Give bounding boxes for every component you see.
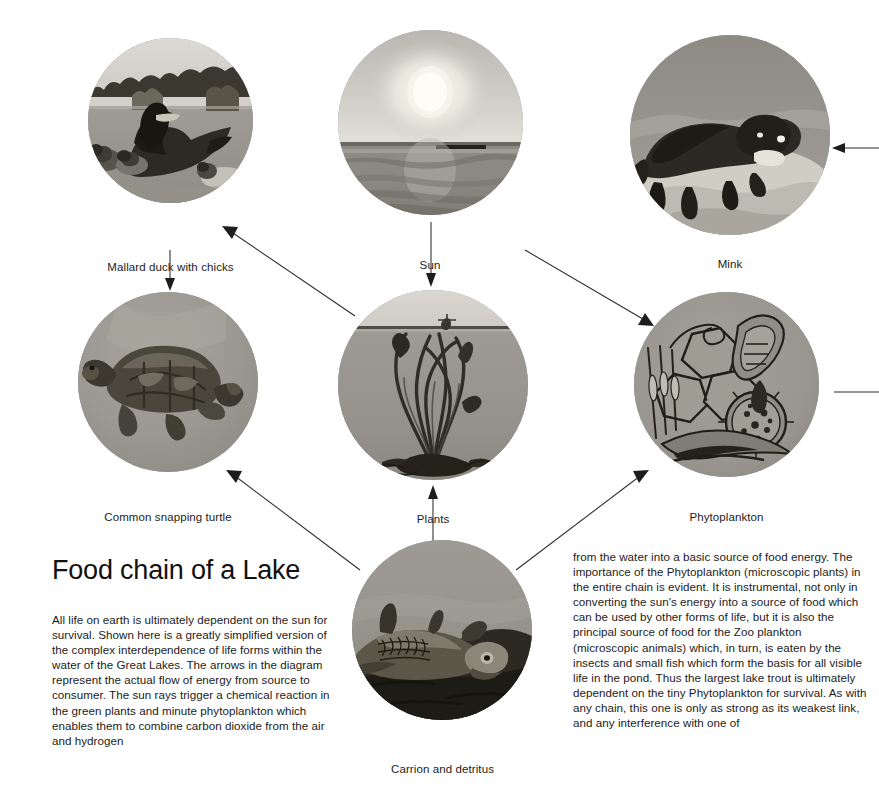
- arrow-sun-to-plants: [424, 222, 438, 288]
- body-paragraph-left: All life on earth is ultimately dependen…: [52, 612, 340, 748]
- arrow-offpage-to-mink: [832, 143, 879, 153]
- page-title: Food chain of a Lake: [52, 554, 432, 586]
- food-chain-diagram: Mallard duck with chicks: [0, 0, 879, 806]
- duck-illustration: [88, 38, 253, 203]
- arrow-sun-to-phytoplankton: [525, 250, 654, 326]
- body-paragraph-right: from the water into a basic source of fo…: [573, 549, 869, 730]
- caption-turtle: Common snapping turtle: [73, 510, 263, 524]
- arrow-mallard-to-turtle: [163, 250, 177, 292]
- mink-illustration: [630, 35, 830, 235]
- arrow-carrion-to-plants: [426, 485, 440, 545]
- caption-mink: Mink: [670, 257, 790, 271]
- body-text-right: from the water into a basic source of fo…: [573, 549, 869, 730]
- turtle-illustration: [78, 292, 258, 472]
- caption-phytoplankton: Phytoplankton: [659, 510, 794, 524]
- body-text-left: All life on earth is ultimately dependen…: [52, 612, 340, 748]
- plants-illustration: [338, 290, 528, 480]
- phytoplankton-illustration: [634, 292, 819, 477]
- caption-carrion: Carrion and detritus: [370, 762, 515, 776]
- sun-illustration: [338, 30, 523, 215]
